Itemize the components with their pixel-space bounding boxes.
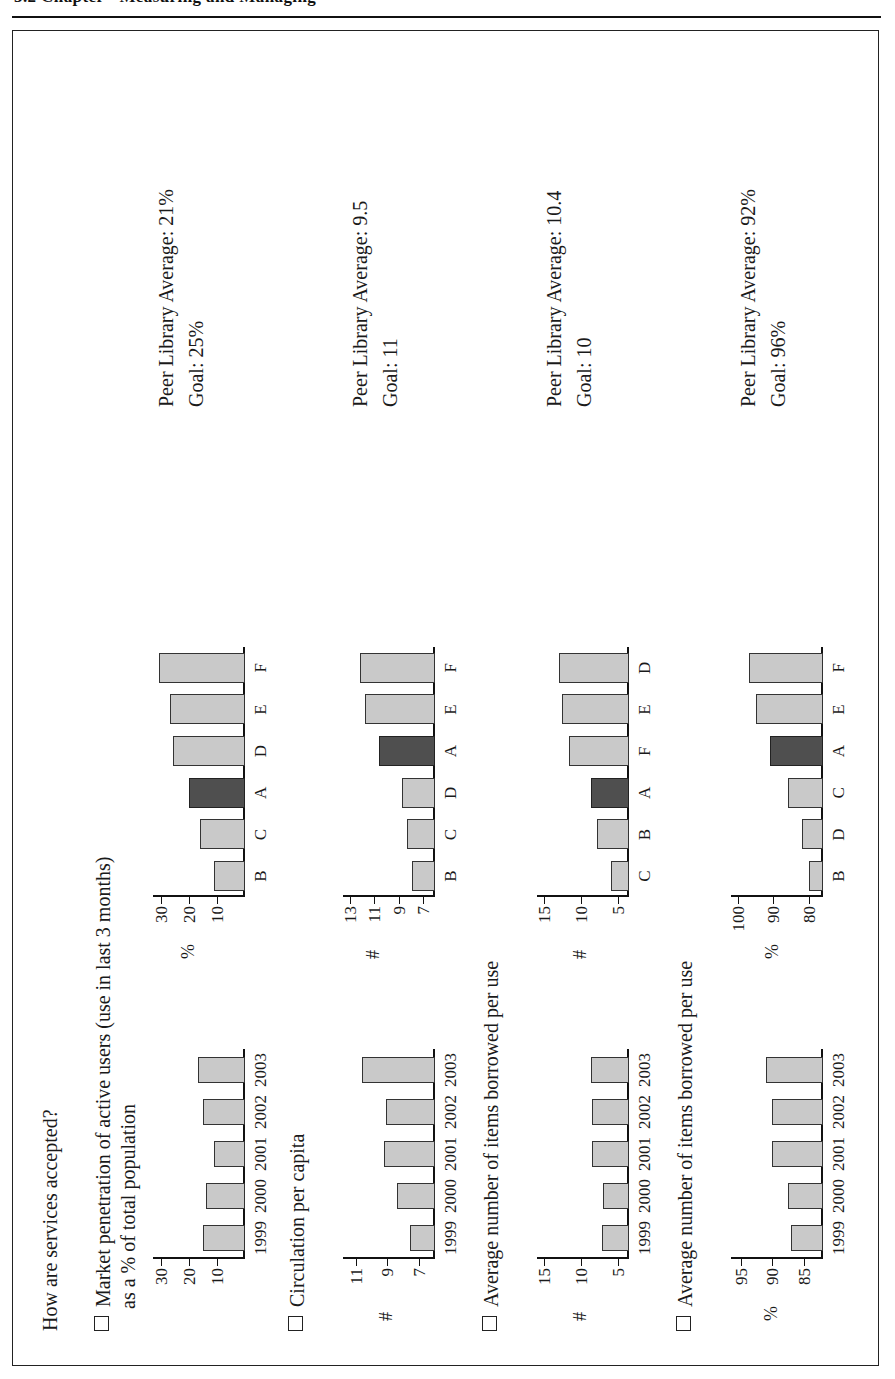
x-tick-label: A <box>636 787 653 799</box>
metric-label-line1: Average number of items borrowed per use <box>674 961 696 1307</box>
x-axis <box>433 647 435 897</box>
y-tick <box>161 1259 162 1266</box>
y-tick <box>773 897 774 904</box>
x-tick-label: D <box>830 828 847 840</box>
y-axis <box>731 1257 823 1259</box>
x-tick-label: 1999 <box>442 1221 459 1255</box>
header-rule <box>12 16 881 18</box>
trend-chart-circulation-per-capita: 7911#19992000200120022003 <box>343 1049 435 1259</box>
x-tick-label: D <box>636 662 653 674</box>
metric-label: Market penetration of active users (use … <box>91 857 141 1331</box>
peer-goal-note: Peer Library Average: 92%Goal: 96% <box>733 189 793 407</box>
metric-label-line1: Market penetration of active users (use … <box>92 857 114 1307</box>
y-tick-label: 15 <box>536 906 553 923</box>
y-tick <box>350 897 351 904</box>
y-tick-label: 15 <box>536 1268 553 1285</box>
bar <box>365 695 435 725</box>
plot-area: 10203019992000200120022003 <box>153 1049 245 1259</box>
y-tick <box>741 1259 742 1266</box>
y-tick <box>804 1259 805 1266</box>
bar <box>559 653 629 683</box>
bar <box>766 1057 823 1083</box>
y-tick <box>399 897 400 904</box>
bar <box>203 1099 245 1125</box>
plot-area: 102030%BCADEF <box>153 647 245 897</box>
y-tick-label: 9 <box>390 906 407 915</box>
x-tick-label: 2002 <box>830 1095 847 1129</box>
bar <box>591 1057 629 1083</box>
y-tick <box>809 897 810 904</box>
y-tick-label: 20 <box>181 1268 198 1285</box>
goal-text: Goal: 96% <box>763 189 793 407</box>
y-tick-label: 80 <box>800 906 817 923</box>
y-tick-label: 5 <box>609 906 626 915</box>
metric-label-line2: as a % of total population <box>116 857 141 1309</box>
bar <box>360 653 435 683</box>
x-tick-label: F <box>442 663 459 672</box>
bar <box>788 778 823 808</box>
trend-chart-items-borrowed-per-use-2: 859095%19992000200120022003 <box>731 1049 823 1259</box>
metric-row: Market penetration of active users (use … <box>91 31 281 1367</box>
x-tick-label: D <box>442 787 459 799</box>
bar <box>562 695 629 725</box>
y-axis <box>343 895 435 897</box>
bar <box>412 861 435 891</box>
bar <box>592 1099 629 1125</box>
x-tick-label: 2003 <box>442 1053 459 1087</box>
checkbox-icon[interactable] <box>676 1316 691 1331</box>
bar <box>603 1183 629 1209</box>
bar <box>809 861 823 891</box>
bar <box>173 736 245 766</box>
checkbox-icon[interactable] <box>288 1316 303 1331</box>
x-tick-label: 2002 <box>252 1095 269 1129</box>
x-tick-label: C <box>830 787 847 798</box>
y-tick-label: 11 <box>366 906 383 922</box>
metric-label: Circulation per capita <box>285 1134 310 1331</box>
peer-chart-items-borrowed-per-use-2: 8090100%BDCAEF <box>731 647 823 897</box>
y-tick <box>374 897 375 904</box>
x-tick-label: A <box>442 745 459 757</box>
y-tick-label: 90 <box>765 906 782 923</box>
x-tick-label: E <box>442 704 459 714</box>
y-tick <box>189 897 190 904</box>
bar <box>569 736 629 766</box>
y-tick-label: 10 <box>209 1268 226 1285</box>
bar <box>362 1057 435 1083</box>
metric-row: Average number of items borrowed per use… <box>673 31 863 1367</box>
y-tick <box>618 897 619 904</box>
checkbox-icon[interactable] <box>482 1316 497 1331</box>
x-tick-label: 2003 <box>252 1053 269 1087</box>
peer-chart-market-penetration: 102030%BCADEF <box>153 647 245 897</box>
y-tick <box>217 1259 218 1266</box>
y-tick-label: 85 <box>795 1268 812 1285</box>
metric-row: Average number of items borrowed per use… <box>479 31 669 1367</box>
y-axis-unit: # <box>363 950 384 959</box>
x-tick-label: B <box>442 871 459 882</box>
x-tick-label: 2000 <box>442 1179 459 1213</box>
bar-highlight <box>591 778 629 808</box>
y-axis-unit: % <box>762 944 783 959</box>
trend-chart-market-penetration: 10203019992000200120022003 <box>153 1049 245 1259</box>
y-tick-label: 9 <box>379 1268 396 1277</box>
bar <box>749 653 823 683</box>
y-axis <box>537 895 629 897</box>
bar <box>214 861 245 891</box>
bar-highlight <box>770 736 823 766</box>
y-tick <box>544 1259 545 1266</box>
x-tick-label: B <box>252 871 269 882</box>
checkbox-icon[interactable] <box>94 1316 109 1331</box>
x-tick-label: F <box>830 663 847 672</box>
plot-area: 8090100%BDCAEF <box>731 647 823 897</box>
x-axis <box>627 647 629 897</box>
peer-average-text: Peer Library Average: 92% <box>733 189 763 407</box>
x-tick-label: 1999 <box>252 1221 269 1255</box>
peer-chart-items-borrowed-per-use-1: 51015#CBAFED <box>537 647 629 897</box>
bar <box>410 1225 435 1251</box>
x-tick-label: 1999 <box>830 1221 847 1255</box>
bar <box>611 861 629 891</box>
bar-highlight <box>189 778 245 808</box>
plot-area: 859095%19992000200120022003 <box>731 1049 823 1259</box>
x-tick-label: 2001 <box>442 1137 459 1171</box>
y-tick-label: 11 <box>347 1268 364 1284</box>
x-tick-label: 2003 <box>830 1053 847 1087</box>
